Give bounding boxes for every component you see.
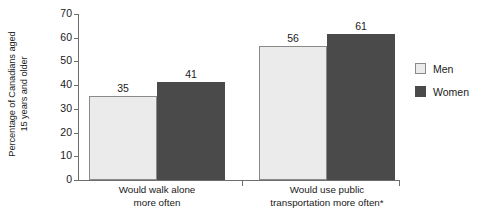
category-label-public-transport-line1: Would use public bbox=[247, 184, 407, 197]
bar-value-men-walk-alone: 35 bbox=[117, 82, 129, 94]
y-tick-label-0: 0 bbox=[66, 173, 72, 186]
y-axis-title-line2: 15 years and older bbox=[19, 56, 31, 131]
y-axis-title-line1: Percentage of Canadians aged bbox=[7, 31, 19, 156]
bar-value-women-public-transport: 61 bbox=[355, 20, 367, 32]
category-label-public-transport-line2: transportation more often* bbox=[247, 197, 407, 210]
bar-chart: Percentage of Canadians aged 15 years an… bbox=[0, 0, 483, 216]
y-tick-label-40: 40 bbox=[60, 78, 72, 91]
legend-label-women: Women bbox=[433, 86, 469, 98]
y-tick-label-20: 20 bbox=[60, 126, 72, 139]
legend-item-women[interactable]: Women bbox=[415, 85, 483, 98]
x-axis-line bbox=[78, 180, 400, 181]
y-tick-label-50: 50 bbox=[60, 54, 72, 67]
category-label-walk-alone-line2: more often bbox=[89, 197, 225, 210]
y-tick-label-30: 30 bbox=[60, 102, 72, 115]
bar-men-public-transport[interactable]: 56 bbox=[259, 46, 327, 180]
x-tick-separator bbox=[242, 181, 243, 186]
bar-value-men-public-transport: 56 bbox=[287, 32, 299, 44]
legend-swatch-men bbox=[415, 63, 426, 74]
y-axis-title: Percentage of Canadians aged 15 years an… bbox=[2, 0, 36, 194]
legend-label-men: Men bbox=[433, 63, 453, 75]
legend-swatch-women bbox=[415, 86, 426, 97]
y-tick-label-10: 10 bbox=[60, 149, 72, 162]
bar-value-women-walk-alone: 41 bbox=[185, 68, 197, 80]
bar-women-public-transport[interactable]: 61 bbox=[327, 34, 395, 180]
bar-women-walk-alone[interactable]: 41 bbox=[157, 82, 225, 180]
y-tick-label-70: 70 bbox=[60, 7, 72, 20]
legend-item-men[interactable]: Men bbox=[415, 62, 483, 75]
legend: Men Women bbox=[415, 62, 483, 108]
plot-area: 0 10 20 30 40 50 60 70 bbox=[78, 14, 400, 181]
bar-men-walk-alone[interactable]: 35 bbox=[89, 96, 157, 180]
y-tick-label-60: 60 bbox=[60, 31, 72, 44]
category-label-walk-alone-line1: Would walk alone bbox=[89, 184, 225, 197]
category-label-walk-alone: Would walk alone more often bbox=[89, 184, 225, 209]
category-label-public-transport: Would use public transportation more oft… bbox=[247, 184, 407, 209]
